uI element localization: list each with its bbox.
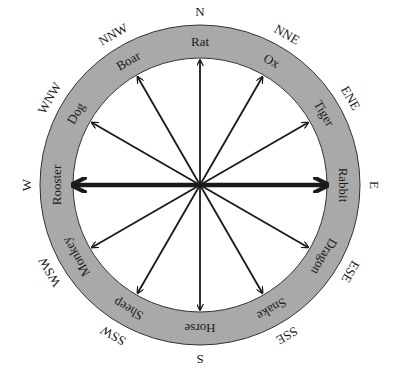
- direction-label-n: N: [195, 4, 205, 19]
- direction-label-ene: ENE: [338, 83, 364, 112]
- direction-label-w: W: [19, 178, 34, 191]
- animal-label-rabbit: Rabbit: [336, 168, 351, 203]
- direction-label-s: S: [196, 352, 203, 367]
- direction-label-ese: ESE: [338, 258, 363, 286]
- zodiac-compass-diagram: RatOxTigerRabbitDragonSnakeHorseSheepMon…: [0, 0, 395, 380]
- animal-label-horse: Horse: [184, 321, 215, 336]
- direction-label-nne: NNE: [272, 21, 303, 47]
- animal-label-rat: Rat: [191, 34, 209, 49]
- direction-label-e: E: [367, 181, 382, 189]
- direction-label-sse: SSE: [274, 324, 301, 348]
- animal-label-rooster: Rooster: [49, 164, 64, 205]
